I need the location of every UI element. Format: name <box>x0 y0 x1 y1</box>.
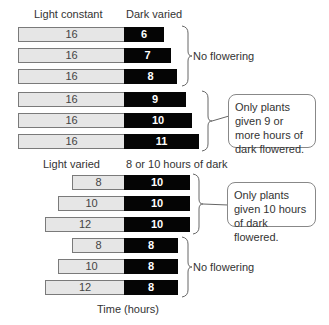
brace-icon <box>202 91 212 151</box>
callout-10-hours: Only plants given 10 hours of dark flowe… <box>227 182 316 227</box>
brace-icon <box>182 26 192 86</box>
brace-icon <box>193 174 203 234</box>
x-axis-label: Time (hours) <box>97 303 159 315</box>
annotation-no-flowering: No flowering <box>193 50 254 62</box>
brace-icon <box>182 237 192 297</box>
callout-9-or-more: Only plants given 9 or more hours of dar… <box>228 94 316 148</box>
annotation-no-flowering: No flowering <box>193 261 254 273</box>
brace-lines <box>0 0 329 325</box>
